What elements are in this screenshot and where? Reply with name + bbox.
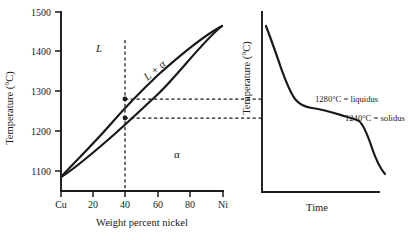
left-y-tick-labels: 1500 1400 1300 1200 1100 — [31, 7, 51, 177]
right-x-axis-title: Time — [306, 202, 328, 213]
x-tick-label-cu: Cu — [55, 199, 67, 210]
right-plot-cooling-curve: Temperature (°C) 1280°C = liquidus 1240°… — [241, 12, 406, 213]
y-tick-label-1400: 1400 — [31, 46, 51, 57]
phase-diagram-figure: Temperature (°C) 1500 1400 1300 1200 110… — [0, 0, 408, 240]
x-tick-label-20: 20 — [88, 199, 98, 210]
solidus-curve — [61, 26, 222, 177]
left-x-axis-title: Weight percent nickel — [96, 217, 188, 228]
liquidus-intersection-marker — [123, 97, 128, 102]
alpha-region-label: α — [174, 148, 180, 160]
right-y-axis-title: Temperature (°C) — [241, 41, 253, 115]
liquid-region-label: L — [95, 42, 102, 54]
solidus-intersection-marker — [123, 116, 128, 121]
liquidus-annotation: 1280°C = liquidus — [315, 94, 379, 104]
left-plot-phase-diagram: Temperature (°C) 1500 1400 1300 1200 110… — [4, 7, 262, 228]
left-y-axis-title: Temperature (°C) — [4, 71, 16, 145]
solidus-annotation: 1240°C = solidus — [345, 113, 406, 123]
x-tick-label-60: 60 — [153, 199, 163, 210]
x-tick-label-ni: Ni — [218, 199, 228, 210]
y-tick-label-1300: 1300 — [31, 86, 51, 97]
x-tick-label-40: 40 — [120, 199, 130, 210]
left-x-tick-labels: Cu 20 40 60 80 Ni — [55, 199, 228, 210]
y-tick-label-1100: 1100 — [31, 166, 51, 177]
x-tick-label-80: 80 — [185, 199, 195, 210]
y-tick-label-1500: 1500 — [31, 7, 51, 18]
y-tick-label-1200: 1200 — [31, 126, 51, 137]
